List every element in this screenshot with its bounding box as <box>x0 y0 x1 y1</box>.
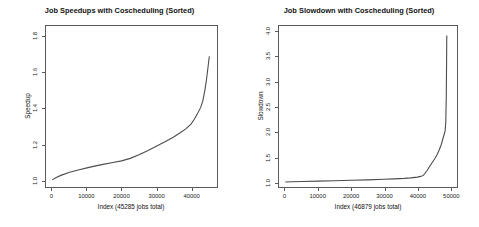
panel-speedup: Job Speedups with Coscheduling (Sorted) … <box>0 0 239 227</box>
yaxis-tick-mark <box>275 158 278 159</box>
yaxis-tick-label: 1.6 <box>32 68 38 76</box>
speedup-curve-svg <box>46 26 217 187</box>
yaxis-tick-mark <box>275 132 278 133</box>
xaxis-tick-mark <box>318 188 319 191</box>
speedup-curve-path <box>52 56 209 179</box>
yaxis-tick-label: 1.8 <box>32 32 38 40</box>
xaxis-tick-label: 10000 <box>310 193 326 199</box>
xaxis-tick-mark <box>51 188 52 191</box>
yaxis-tick-mark <box>275 56 278 57</box>
yaxis-tick-mark <box>275 82 278 83</box>
yaxis-tick-label: 4.0 <box>265 27 271 35</box>
yaxis-tick-mark <box>275 183 278 184</box>
xaxis-tick-label: 20000 <box>113 193 129 199</box>
yaxis-tick-label: 1.4 <box>32 104 38 112</box>
xaxis-tick-mark <box>418 188 419 191</box>
yaxis-tick-label: 3.5 <box>265 52 271 60</box>
plot-area-slowdown <box>278 25 458 188</box>
xaxis-title-speedup: Index (45285 jobs total) <box>98 203 165 210</box>
yaxis-tick-mark <box>275 31 278 32</box>
yaxis-title-speedup: Speedup <box>24 93 31 119</box>
xaxis-tick-label: 10000 <box>78 193 94 199</box>
xaxis-tick-mark <box>192 188 193 191</box>
figure-container: Job Speedups with Coscheduling (Sorted) … <box>0 0 479 227</box>
yaxis-tick-label: 1.0 <box>265 179 271 187</box>
yaxis-tick-mark <box>42 72 45 73</box>
yaxis-tick-mark <box>42 36 45 37</box>
yaxis-title-slowdown: Slowdown <box>257 91 264 120</box>
slowdown-curve-path <box>285 36 446 183</box>
yaxis-tick-mark <box>42 181 45 182</box>
plot-area-speedup <box>45 25 218 188</box>
xaxis-tick-label: 40000 <box>183 193 199 199</box>
panel-title-slowdown: Job Slowdown with Coscheduling (Sorted) <box>239 6 479 15</box>
xaxis-tick-mark <box>157 188 158 191</box>
yaxis-tick-label: 1.0 <box>32 177 38 185</box>
slowdown-curve-svg <box>279 26 457 187</box>
xaxis-tick-label: 0 <box>50 193 53 199</box>
xaxis-tick-label: 20000 <box>343 193 359 199</box>
yaxis-tick-label: 1.2 <box>32 140 38 148</box>
xaxis-tick-label: 30000 <box>376 193 392 199</box>
yaxis-tick-mark <box>275 107 278 108</box>
xaxis-tick-label: 50000 <box>443 193 459 199</box>
xaxis-tick-label: 30000 <box>148 193 164 199</box>
xaxis-tick-mark <box>351 188 352 191</box>
xaxis-tick-mark <box>385 188 386 191</box>
xaxis-tick-label: 40000 <box>410 193 426 199</box>
xaxis-tick-label: 0 <box>283 193 286 199</box>
panel-slowdown: Job Slowdown with Coscheduling (Sorted) … <box>239 0 479 227</box>
yaxis-tick-mark <box>42 145 45 146</box>
yaxis-tick-label: 3.0 <box>265 78 271 86</box>
yaxis-tick-label: 2.0 <box>265 128 271 136</box>
xaxis-tick-mark <box>284 188 285 191</box>
xaxis-tick-mark <box>86 188 87 191</box>
yaxis-tick-label: 2.5 <box>265 103 271 111</box>
xaxis-tick-mark <box>121 188 122 191</box>
yaxis-tick-label: 1.5 <box>265 154 271 162</box>
panel-title-speedup: Job Speedups with Coscheduling (Sorted) <box>0 6 239 15</box>
yaxis-tick-mark <box>42 108 45 109</box>
xaxis-title-slowdown: Index (46879 jobs total) <box>335 203 402 210</box>
xaxis-tick-mark <box>451 188 452 191</box>
